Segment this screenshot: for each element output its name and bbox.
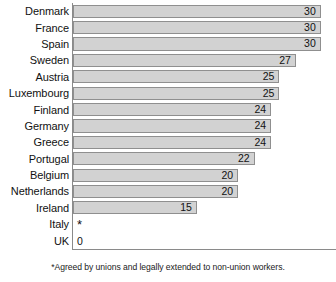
bar-row: Luxembourg25: [0, 85, 336, 101]
bar-cell: 24: [72, 118, 336, 134]
bar-value-label: 30: [304, 6, 320, 17]
category-label: Portugal: [0, 153, 72, 165]
bar-cell: 24: [72, 134, 336, 150]
bar-row: Belgium20: [0, 167, 336, 183]
bar-row: UK0: [0, 232, 336, 248]
category-label: Netherlands: [0, 185, 72, 197]
chart-footnote: *Agreed by unions and legally extended t…: [0, 262, 336, 273]
chart-baseline: [72, 249, 336, 250]
bar: 24: [73, 103, 271, 116]
bar-row: Austria25: [0, 69, 336, 85]
bar-value-label: 27: [279, 55, 295, 66]
bar-cell: 30: [72, 36, 336, 52]
category-label: Sweden: [0, 54, 72, 66]
category-label: France: [0, 22, 72, 34]
bar: 20: [73, 185, 238, 198]
category-label: Italy: [0, 218, 72, 230]
bar-cell: 20: [72, 167, 336, 183]
category-label: Luxembourg: [0, 87, 72, 99]
bar-value-label: *: [77, 218, 82, 229]
bar-cell: 30: [72, 19, 336, 35]
bar-cell: *: [72, 216, 336, 232]
bar-value-label: 20: [221, 170, 237, 181]
bar-cell: 22: [72, 151, 336, 167]
bar-cell: 24: [72, 101, 336, 117]
bar-row: Ireland15: [0, 200, 336, 216]
category-label: Denmark: [0, 5, 72, 17]
bar-row: Denmark30: [0, 3, 336, 19]
bar-value-label: 24: [255, 120, 271, 131]
category-label: Belgium: [0, 169, 72, 181]
bar-chart: Denmark30France30Spain30Sweden27Austria2…: [0, 0, 336, 282]
bar: 20: [73, 169, 238, 182]
bar-row: Portugal22: [0, 151, 336, 167]
bar-value-label: 25: [263, 88, 279, 99]
bar-cell: 0: [72, 232, 336, 248]
bar-value-label: 22: [238, 153, 254, 164]
bar-value-label: 0: [77, 235, 83, 246]
bar-cell: 25: [72, 85, 336, 101]
bar-row: Greece24: [0, 134, 336, 150]
bar-row: Netherlands20: [0, 183, 336, 199]
bar-value-label: 15: [180, 202, 196, 213]
bar: 24: [73, 119, 271, 132]
category-label: Austria: [0, 71, 72, 83]
bar-value-label: 24: [255, 137, 271, 148]
bar-row: Sweden27: [0, 52, 336, 68]
bar-cell: 25: [72, 69, 336, 85]
category-label: Ireland: [0, 202, 72, 214]
bar: 30: [73, 5, 321, 18]
bar: 24: [73, 136, 271, 149]
bar-value-label: 30: [304, 22, 320, 33]
category-label: UK: [0, 235, 72, 247]
bar-cell: 27: [72, 52, 336, 68]
plot-area: Denmark30France30Spain30Sweden27Austria2…: [0, 0, 336, 252]
bar: 25: [73, 87, 279, 100]
bar-cell: 15: [72, 200, 336, 216]
bar-value-label: 25: [263, 71, 279, 82]
category-label: Germany: [0, 120, 72, 132]
category-label: Greece: [0, 136, 72, 148]
bar: 25: [73, 70, 279, 83]
bar: 27: [73, 54, 296, 67]
bar-value-label: 30: [304, 38, 320, 49]
category-label: Spain: [0, 38, 72, 50]
bar-value-label: 24: [255, 104, 271, 115]
bar-cell: 30: [72, 3, 336, 19]
bar-row: Spain30: [0, 36, 336, 52]
bar-value-label: 20: [221, 186, 237, 197]
bar-row: France30: [0, 19, 336, 35]
category-label: Finland: [0, 104, 72, 116]
bar-row: Germany24: [0, 118, 336, 134]
bar: 30: [73, 21, 321, 34]
bar: 22: [73, 152, 255, 165]
bar-cell: 20: [72, 183, 336, 199]
bar: 15: [73, 201, 197, 214]
bar-row: Finland24: [0, 101, 336, 117]
bar: 30: [73, 37, 321, 50]
bar-row: Italy*: [0, 216, 336, 232]
bar-rows: Denmark30France30Spain30Sweden27Austria2…: [0, 3, 336, 249]
